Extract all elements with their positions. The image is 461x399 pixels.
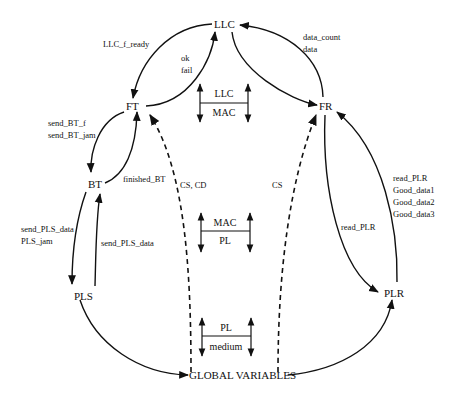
label-send-bt-jam: send_BT_jam xyxy=(48,130,96,140)
node-ft: FT xyxy=(126,100,139,112)
layer-boundary-mac-pl: MAC PL xyxy=(201,213,250,252)
label-send-pls-data-up: send_PLS_data xyxy=(101,238,154,248)
state-diagram: LLC MAC MAC PL PL medium LLC FT FR BT PL… xyxy=(0,0,461,399)
node-plr: PLR xyxy=(384,287,405,299)
layer-upper-label: MAC xyxy=(214,217,237,228)
label-good-data1: Good_data1 xyxy=(393,185,435,195)
layer-boundary-pl-medium: PL medium xyxy=(202,318,251,356)
node-llc: LLC xyxy=(214,18,235,30)
edge-bt-to-ft xyxy=(105,112,137,183)
label-read-plr-down: read_PLR xyxy=(341,222,376,232)
dashed-edge-global-to-ft xyxy=(150,115,191,372)
label-llc-f-ready: LLC_f_ready xyxy=(103,39,150,49)
layer-lower-label: MAC xyxy=(213,107,236,118)
edge-pls-to-bt xyxy=(95,194,100,286)
label-finished-bt: finished_BT xyxy=(123,174,166,184)
label-fail: fail xyxy=(181,65,193,75)
label-data: data xyxy=(303,44,317,54)
edge-pls-to-global xyxy=(80,300,188,375)
label-good-data3: Good_data3 xyxy=(393,209,435,219)
label-good-data2: Good_data2 xyxy=(393,197,435,207)
node-pls: PLS xyxy=(74,290,93,302)
node-fr: FR xyxy=(319,100,333,112)
edge-plr-to-fr xyxy=(337,112,397,282)
label-send-bt-f: send_BT_f xyxy=(48,118,86,128)
node-global-variables: GLOBAL VARIABLES xyxy=(189,369,296,381)
label-read-plr: read_PLR xyxy=(393,173,428,183)
label-cs-cd: CS, CD xyxy=(180,180,206,190)
label-send-pls-data: send_PLS_data xyxy=(21,224,74,234)
label-cs: CS xyxy=(272,180,283,190)
layer-upper-label: PL xyxy=(220,322,232,333)
label-pls-jam: PLS_jam xyxy=(21,236,53,246)
layer-upper-label: LLC xyxy=(215,88,234,99)
label-data-count: data_count xyxy=(303,32,341,42)
layer-lower-label: PL xyxy=(219,235,231,246)
node-bt: BT xyxy=(88,178,102,190)
layer-boundary-llc-mac: LLC MAC xyxy=(200,84,248,122)
dashed-edge-global-to-fr xyxy=(278,115,316,372)
label-ok: ok xyxy=(181,53,190,63)
layer-lower-label: medium xyxy=(210,341,243,352)
edge-llc-to-fr xyxy=(232,32,317,105)
edge-ft-to-bt xyxy=(91,112,124,172)
edge-fr-to-plr xyxy=(325,115,378,292)
edge-global-to-plr xyxy=(288,300,392,375)
edge-bt-to-pls xyxy=(72,192,86,284)
